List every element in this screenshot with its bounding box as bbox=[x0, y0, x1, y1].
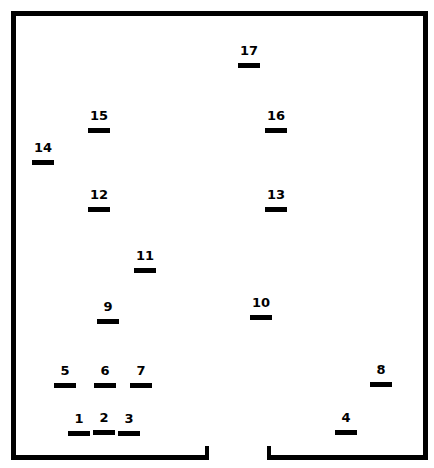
position-bar bbox=[265, 128, 287, 133]
position-bar bbox=[93, 430, 115, 435]
position-bar bbox=[238, 63, 260, 68]
position-bar bbox=[130, 383, 152, 388]
position-number: 5 bbox=[54, 363, 76, 379]
position-number: 12 bbox=[88, 187, 110, 203]
wall-bottom-right bbox=[267, 455, 428, 460]
position-bar bbox=[97, 319, 119, 324]
position-number: 9 bbox=[97, 299, 119, 315]
position-number: 7 bbox=[130, 363, 152, 379]
position-bar bbox=[88, 128, 110, 133]
wall-top bbox=[11, 11, 428, 16]
position-number: 17 bbox=[238, 43, 260, 59]
position-bar bbox=[54, 383, 76, 388]
position-number: 16 bbox=[265, 108, 287, 124]
position-bar bbox=[94, 383, 116, 388]
position-bar bbox=[250, 315, 272, 320]
wall-right bbox=[423, 11, 428, 460]
position-bar bbox=[265, 207, 287, 212]
wall-left bbox=[11, 11, 16, 460]
wall-bottom-left bbox=[11, 455, 209, 460]
position-number: 4 bbox=[335, 410, 357, 426]
position-number: 14 bbox=[32, 140, 54, 156]
position-number: 2 bbox=[93, 410, 115, 426]
position-bar bbox=[118, 431, 140, 436]
door-jamb-left bbox=[205, 446, 209, 460]
position-number: 15 bbox=[88, 108, 110, 124]
position-number: 13 bbox=[265, 187, 287, 203]
position-number: 6 bbox=[94, 363, 116, 379]
position-bar bbox=[134, 268, 156, 273]
position-number: 1 bbox=[68, 411, 90, 427]
position-bar bbox=[68, 431, 90, 436]
position-bar bbox=[88, 207, 110, 212]
position-number: 8 bbox=[370, 362, 392, 378]
position-number: 3 bbox=[118, 411, 140, 427]
position-number: 11 bbox=[134, 248, 156, 264]
position-bar bbox=[335, 430, 357, 435]
door-jamb-right bbox=[267, 446, 271, 460]
position-bar bbox=[32, 160, 54, 165]
position-bar bbox=[370, 382, 392, 387]
position-number: 10 bbox=[250, 295, 272, 311]
